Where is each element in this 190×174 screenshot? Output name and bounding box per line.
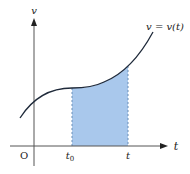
t0-label-subscript: 0 (70, 155, 74, 163)
curve-label: v = v(t) (146, 21, 184, 32)
y-axis-label: v (31, 5, 37, 16)
t-tick-label: t (126, 150, 131, 161)
y-axis-arrow-icon (31, 18, 37, 26)
velocity-area-diagram: v t O t0 t v = v(t) (0, 0, 190, 174)
x-axis-label: t (174, 140, 179, 153)
t0-label: t0 (66, 150, 75, 163)
origin-label: O (20, 150, 28, 161)
shaded-area (20, 32, 153, 146)
x-axis-arrow-icon (160, 143, 168, 149)
